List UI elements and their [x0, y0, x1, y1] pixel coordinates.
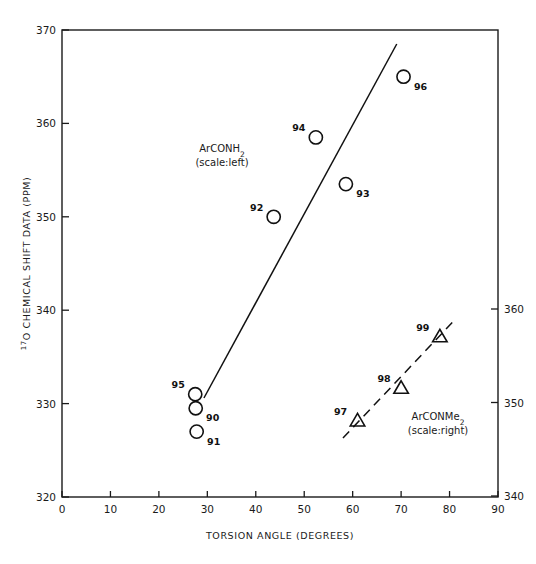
- data-point-label: 95: [172, 379, 185, 390]
- y-axis-title-text: O CHEMICAL SHIFT DATA (PPM): [21, 177, 32, 341]
- x-tick-label: 50: [298, 503, 311, 515]
- y-tick-label-left: 370: [36, 24, 56, 36]
- data-point-label: 96: [414, 81, 428, 92]
- annotation-arconme2-scale-note: (scale:right): [408, 425, 469, 436]
- x-tick-label: 60: [346, 503, 359, 515]
- y-tick-label-left: 330: [36, 398, 56, 410]
- chart-figure: 0102030405060708090320330340350360370340…: [0, 0, 536, 564]
- data-point-label: 98: [377, 373, 391, 384]
- y-tick-label-left: 320: [36, 491, 56, 503]
- trend-line-arconh2: [204, 44, 397, 398]
- y-tick-label-left: 360: [36, 117, 56, 129]
- data-point-circle[interactable]: [189, 402, 202, 415]
- x-tick-label: 90: [491, 503, 504, 515]
- data-point-circle[interactable]: [339, 178, 352, 191]
- annotation-arconme2-formula: ArCONMe: [412, 411, 460, 422]
- x-tick-label: 10: [104, 503, 117, 515]
- x-tick-label: 70: [394, 503, 407, 515]
- x-axis-title: TORSION ANGLE (DEGREES): [205, 530, 354, 541]
- x-tick-label: 20: [152, 503, 165, 515]
- x-tick-label: 0: [59, 503, 66, 515]
- y-tick-label-left: 350: [36, 211, 56, 223]
- x-tick-label: 40: [249, 503, 262, 515]
- annotation-arconh2-formula: ArCONH: [199, 143, 240, 154]
- data-point-label: 99: [416, 322, 429, 333]
- data-point-triangle[interactable]: [350, 413, 365, 426]
- data-point-circle[interactable]: [189, 388, 202, 401]
- data-point-label: 90: [206, 412, 220, 423]
- data-point-circle[interactable]: [190, 425, 203, 438]
- data-point-label: 97: [334, 406, 347, 417]
- y-tick-label-right: 360: [504, 303, 524, 315]
- y-tick-label-right: 340: [504, 490, 524, 502]
- data-point-label: 92: [250, 202, 263, 213]
- x-tick-label: 80: [443, 503, 456, 515]
- y-tick-label-left: 340: [36, 304, 56, 316]
- data-point-label: 91: [207, 436, 220, 447]
- data-point-circle[interactable]: [309, 131, 322, 144]
- annotation-arconh2-scale-note: (scale:left): [195, 157, 248, 168]
- x-tick-label: 30: [201, 503, 214, 515]
- data-point-label: 94: [292, 122, 306, 133]
- data-point-circle[interactable]: [397, 70, 410, 83]
- y-axis-title: 17O CHEMICAL SHIFT DATA (PPM): [20, 177, 32, 351]
- data-point-circle[interactable]: [267, 210, 280, 223]
- scatter-plot-svg: 0102030405060708090320330340350360370340…: [0, 0, 536, 564]
- series-arconh2: 95909192949396: [172, 44, 428, 447]
- data-point-label: 93: [356, 188, 369, 199]
- y-tick-label-right: 350: [504, 397, 524, 409]
- y-axis-title-superscript: 17: [20, 340, 28, 350]
